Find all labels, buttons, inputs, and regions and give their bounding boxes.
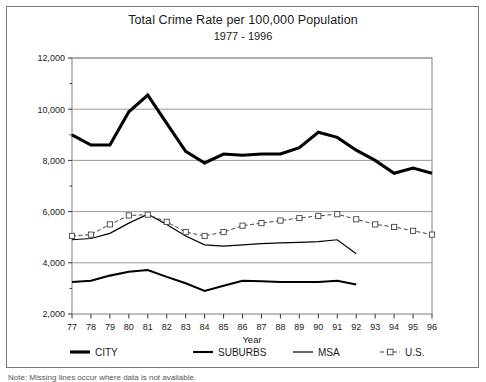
x-tick-label: 96 (427, 322, 437, 332)
x-tick-label: 94 (389, 322, 399, 332)
x-tick-label: 91 (332, 322, 342, 332)
x-tick-label: 92 (351, 322, 361, 332)
series-marker-us (316, 213, 321, 218)
legend-label: MSA (318, 347, 340, 358)
line-chart-plot: 2,0004,0006,0008,00010,00012,00077787980… (0, 0, 486, 382)
y-tick-label: 8,000 (42, 156, 65, 166)
series-marker-us (202, 233, 207, 238)
legend-label: SUBURBS (218, 347, 267, 358)
legend-item-us[interactable]: U.S. (380, 347, 424, 358)
footnote: Note: Missing lines occur where data is … (8, 373, 196, 382)
series-marker-us (410, 228, 415, 233)
series-marker-us (145, 212, 150, 217)
series-marker-us (392, 224, 397, 229)
x-tick-label: 95 (408, 322, 418, 332)
y-tick-label: 12,000 (37, 53, 65, 63)
x-tick-label: 83 (181, 322, 191, 332)
x-axis-title: Year (242, 334, 261, 345)
legend-item-suburbs[interactable]: SUBURBS (193, 347, 267, 358)
x-tick-label: 86 (238, 322, 248, 332)
series-marker-us (259, 221, 264, 226)
legend-label: U.S. (405, 347, 424, 358)
x-tick-label: 80 (124, 322, 134, 332)
x-tick-label: 82 (162, 322, 172, 332)
series-marker-us (221, 229, 226, 234)
y-tick-label: 10,000 (37, 105, 65, 115)
x-tick-label: 78 (86, 322, 96, 332)
x-tick-label: 81 (143, 322, 153, 332)
x-tick-label: 84 (200, 322, 210, 332)
x-tick-label: 93 (370, 322, 380, 332)
x-tick-label: 89 (294, 322, 304, 332)
x-tick-label: 90 (313, 322, 323, 332)
y-tick-label: 2,000 (42, 309, 65, 319)
series-marker-us (335, 212, 340, 217)
series-marker-us (164, 219, 169, 224)
legend-item-msa[interactable]: MSA (293, 347, 340, 358)
legend-label: CITY (95, 347, 118, 358)
series-line-suburbs (72, 270, 356, 291)
x-tick-label: 85 (219, 322, 229, 332)
series-marker-us (354, 217, 359, 222)
y-tick-label: 4,000 (42, 258, 65, 268)
series-marker-us (126, 213, 131, 218)
x-tick-label: 88 (275, 322, 285, 332)
series-marker-us (107, 222, 112, 227)
series-marker-us (183, 229, 188, 234)
chart-figure: Total Crime Rate per 100,000 Population … (0, 0, 486, 382)
series-marker-us (429, 232, 434, 237)
legend-marker (387, 349, 393, 355)
series-marker-us (297, 215, 302, 220)
series-line-city (72, 95, 432, 173)
series-marker-us (69, 233, 74, 238)
y-tick-label: 6,000 (42, 207, 65, 217)
x-tick-label: 87 (256, 322, 266, 332)
x-tick-label: 77 (67, 322, 77, 332)
x-tick-label: 79 (105, 322, 115, 332)
plot-area-border (72, 58, 432, 314)
series-marker-us (278, 218, 283, 223)
series-marker-us (88, 232, 93, 237)
series-marker-us (240, 223, 245, 228)
series-marker-us (373, 222, 378, 227)
legend-item-city[interactable]: CITY (70, 347, 118, 358)
